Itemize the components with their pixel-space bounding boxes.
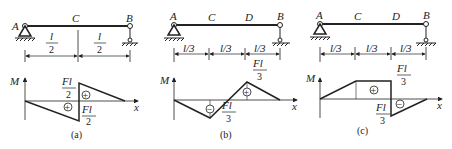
point-label-c: C <box>72 12 80 24</box>
axis-label-m: M <box>159 74 170 86</box>
moment-num: Fl <box>252 57 263 69</box>
axis-label-x: x <box>436 99 442 111</box>
point-label-a: A <box>315 9 323 21</box>
panel-c: A C D B l/3 l/3 l/3 M x + − Fl <box>305 9 442 137</box>
sign-positive: + <box>83 90 89 101</box>
beam-b: A C D B l/3 l/3 l/3 <box>164 10 290 62</box>
point-label-b: B <box>423 9 430 21</box>
dim-den: 2 <box>97 44 102 55</box>
point-label-b: B <box>126 12 133 24</box>
sign-negative: − <box>397 99 403 110</box>
sign-positive: + <box>371 85 377 96</box>
moment-diagram-a: M x + + Fl 2 Fl 2 (a) <box>9 75 139 141</box>
panel-b: A C D B l/3 l/3 l/3 M x − + <box>159 10 297 141</box>
caption-c: (c) <box>357 125 368 137</box>
dim-label: l/3 <box>183 42 195 54</box>
moment-num: Fl <box>375 101 386 113</box>
roller-support-icon <box>272 27 290 46</box>
caption-a: (a) <box>71 129 82 141</box>
dim-label: l/3 <box>254 42 266 54</box>
dim-num: l <box>98 30 101 42</box>
point-label-c: C <box>208 11 216 23</box>
axis-label-x: x <box>133 101 139 113</box>
axis-label-x: x <box>291 100 297 112</box>
caption-b: (b) <box>220 129 232 141</box>
beam-moment-diagrams: A C B l 2 l 2 M x + + Fl <box>0 0 452 149</box>
moment-den: 3 <box>380 115 385 126</box>
moment-den: 3 <box>401 76 406 87</box>
pin-support-icon <box>164 25 184 41</box>
point-label-d: D <box>391 10 400 22</box>
moment-den: 3 <box>257 71 262 82</box>
axis-label-m: M <box>9 75 20 87</box>
beam-a: A C B l 2 l 2 <box>11 12 138 62</box>
sign-positive: + <box>65 102 71 113</box>
sign-negative: − <box>207 104 213 115</box>
moment-diagram-b: M x − + Fl 3 Fl 3 (b) <box>159 57 297 141</box>
point-label-b: B <box>277 10 284 22</box>
moment-den: 3 <box>226 113 231 124</box>
moment-num: Fl <box>61 75 72 87</box>
dim-label: l/3 <box>220 42 232 54</box>
moment-num: Fl <box>81 103 92 115</box>
point-label-a: A <box>169 10 177 22</box>
dim-num: l <box>50 30 53 42</box>
point-label-d: D <box>244 11 253 23</box>
point-label-c: C <box>354 10 362 22</box>
moment-num: Fl <box>396 62 407 74</box>
moment-diagram-c: M x + − Fl 3 Fl 3 (c) <box>305 62 442 137</box>
pin-support-icon <box>310 24 330 40</box>
beam-c: A C D B l/3 l/3 l/3 <box>310 9 436 62</box>
roller-support-icon <box>416 26 436 46</box>
dim-label: l/3 <box>330 42 342 54</box>
moment-den: 2 <box>66 89 71 100</box>
sign-positive: + <box>244 87 250 98</box>
dim-den: 2 <box>49 44 54 55</box>
dim-label: l/3 <box>366 42 378 54</box>
point-label-a: A <box>11 20 19 32</box>
moment-num: Fl <box>221 99 232 111</box>
dim-label: l/3 <box>400 42 412 54</box>
moment-den: 2 <box>86 116 91 127</box>
panel-a: A C B l 2 l 2 M x + + Fl <box>9 12 139 141</box>
axis-label-m: M <box>305 72 316 84</box>
roller-support-icon <box>122 28 138 46</box>
